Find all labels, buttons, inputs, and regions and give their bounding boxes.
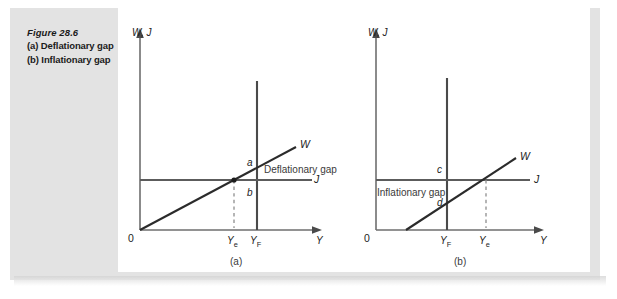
chart-inflationary-gap: W, J Y 0 W J c d Inflationary gap YF Ye … <box>354 8 590 272</box>
chart-b-tick-ye: Ye <box>479 236 490 248</box>
figure-caption-line-a: (a) Deflationary gap <box>27 39 115 52</box>
chart-a-canvas <box>118 8 354 272</box>
chart-b-tick-ye-base: Y <box>479 235 486 246</box>
chart-a-point-b-label: b <box>247 188 253 198</box>
chart-b-point-d-label: d <box>437 198 443 208</box>
chart-b-point-c-label: c <box>437 165 442 175</box>
figure-caption: Figure 28.6 (a) Deflationary gap (b) Inf… <box>27 26 115 66</box>
chart-a-withdrawals-line <box>140 147 296 230</box>
chart-a-gap-label: Deflationary gap <box>264 165 337 175</box>
chart-a-x-axis-arrowhead <box>312 226 322 234</box>
chart-b-gap-label: Inflationary gap <box>377 188 445 198</box>
chart-a-tick-yf-sub: F <box>257 240 262 249</box>
chart-a-tick-ye-sub: e <box>234 240 238 249</box>
chart-b-x-axis-arrowhead <box>534 226 544 234</box>
chart-b-x-axis-label: Y <box>540 236 547 246</box>
chart-a-tick-yf-base: Y <box>250 235 257 246</box>
chart-b-curve-j-label: J <box>534 174 539 185</box>
chart-a-tick-ye-base: Y <box>227 235 234 246</box>
chart-b-tick-ye-sub: e <box>486 240 490 249</box>
chart-b-y-axis-label: W, J <box>368 28 388 38</box>
chart-a-y-axis-label: W, J <box>132 28 152 38</box>
chart-a-equilibrium-point <box>231 177 236 182</box>
chart-a-origin-label: 0 <box>128 233 134 244</box>
chart-b-canvas <box>354 8 590 272</box>
chart-b-origin-label: 0 <box>364 233 370 244</box>
chart-b-sub-label: (b) <box>454 257 466 267</box>
chart-b-tick-yf-base: Y <box>440 235 447 246</box>
chart-a-point-a-label: a <box>247 158 253 168</box>
chart-a-tick-ye: Ye <box>227 236 238 248</box>
chart-b-tick-yf-sub: F <box>447 240 452 249</box>
figure-number: Figure 28.6 <box>27 26 115 39</box>
chart-b-tick-yf: YF <box>440 236 451 248</box>
figure-root: Figure 28.6 (a) Deflationary gap (b) Inf… <box>0 0 617 299</box>
chart-b-curve-w-label: W <box>520 151 530 162</box>
figure-caption-line-b: (b) Inflationary gap <box>27 53 115 66</box>
chart-a-sub-label: (a) <box>230 257 242 267</box>
chart-a-curve-w-label: W <box>300 139 310 150</box>
chart-deflationary-gap: W, J Y 0 W J a b Deflationary gap Ye YF … <box>118 8 354 272</box>
chart-a-tick-yf: YF <box>250 236 261 248</box>
chart-a-x-axis-label: Y <box>316 236 323 246</box>
chart-a-curve-j-label: J <box>314 174 319 185</box>
figure-plate-shadow <box>14 276 606 286</box>
